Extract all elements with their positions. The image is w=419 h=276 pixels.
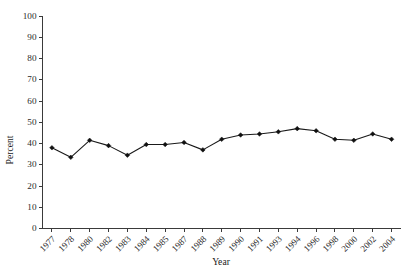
x-tick-label: 1988	[188, 233, 208, 253]
data-point	[125, 153, 130, 158]
data-point	[144, 142, 149, 147]
x-tick-label: 1980	[75, 233, 95, 253]
x-tick-label: 2000	[339, 233, 359, 253]
x-tick-label: 1990	[226, 233, 246, 253]
x-tick-label: 1984	[132, 233, 152, 253]
x-tick-label: 1987	[170, 233, 190, 253]
x-tick-label: 1994	[283, 233, 303, 253]
data-point	[295, 126, 300, 131]
data-point	[276, 130, 281, 135]
x-tick-label: 2004	[377, 233, 397, 253]
data-point	[333, 137, 338, 142]
y-axis-title: Percent	[4, 135, 15, 164]
data-point	[219, 137, 224, 142]
x-tick-label: 2002	[358, 234, 378, 254]
y-axis-ticks	[39, 16, 43, 229]
data-point	[257, 132, 262, 137]
x-axis-title: Year	[212, 256, 230, 267]
x-tick-label: 1978	[56, 233, 76, 253]
y-tick-label: 60	[27, 96, 37, 106]
data-point	[314, 128, 319, 133]
data-point	[106, 143, 111, 148]
data-point	[352, 138, 357, 143]
y-tick-label: 30	[27, 159, 37, 169]
x-tick-label: 1998	[321, 233, 341, 253]
y-tick-label: 90	[27, 32, 37, 42]
y-tick-label: 20	[27, 181, 37, 191]
data-point	[163, 142, 168, 147]
x-axis-tick-labels: 1977197819801982198319841985198719881989…	[38, 233, 398, 253]
x-tick-label: 1993	[264, 233, 284, 253]
line-chart: 0102030405060708090100 19771978198019821…	[0, 0, 419, 276]
x-tick-label: 1982	[94, 234, 114, 254]
y-tick-label: 50	[27, 117, 37, 127]
data-point	[238, 133, 243, 138]
y-tick-label: 80	[27, 53, 37, 63]
y-tick-label: 70	[27, 74, 37, 84]
y-axis-tick-labels: 0102030405060708090100	[23, 11, 37, 234]
x-tick-label: 1983	[113, 233, 133, 253]
y-tick-label: 0	[32, 223, 37, 233]
chart-page: 0102030405060708090100 19771978198019821…	[0, 0, 419, 276]
x-tick-label: 1989	[207, 233, 227, 253]
data-point	[370, 132, 375, 137]
y-tick-label: 40	[27, 138, 37, 148]
data-point	[201, 148, 206, 153]
x-tick-label: 1985	[151, 233, 171, 253]
data-series-line	[52, 129, 392, 158]
y-tick-label: 100	[23, 11, 37, 21]
x-tick-label: 1991	[245, 234, 265, 254]
data-point-markers	[50, 126, 394, 159]
data-point	[182, 140, 187, 145]
y-tick-label: 10	[27, 202, 37, 212]
x-tick-label: 1996	[302, 233, 322, 253]
x-tick-label: 1977	[38, 233, 58, 253]
data-point	[50, 145, 55, 150]
data-point	[389, 137, 394, 142]
x-axis-ticks	[52, 229, 392, 233]
